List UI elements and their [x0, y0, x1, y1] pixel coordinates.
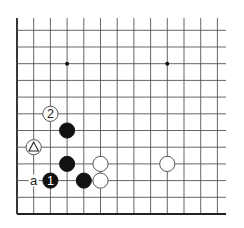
move-number-2: 2	[47, 107, 54, 121]
white-stone	[93, 173, 108, 188]
black-stone	[60, 156, 75, 171]
white-stone	[160, 156, 175, 171]
star-point	[165, 62, 169, 66]
move-number-1: 1	[47, 174, 54, 188]
black-stone	[76, 173, 91, 188]
black-stone	[60, 123, 75, 138]
star-point	[65, 62, 69, 66]
go-board: a12	[0, 0, 244, 228]
white-stone	[93, 156, 108, 171]
point-label-a: a	[30, 173, 38, 188]
